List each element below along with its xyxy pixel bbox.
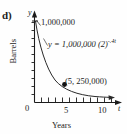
data-point-label: (5, 250,000) — [65, 77, 107, 86]
exponential-decay-figure: d) y t 1,000,000 y = 1,000,000 (2)-.4t (… — [0, 0, 127, 134]
equation-leader-line — [44, 39, 48, 46]
decay-curve — [36, 21, 116, 100]
part-label: d) — [2, 10, 12, 21]
y-axis-title: Barrels — [9, 30, 18, 72]
y-axis-arrowhead — [32, 11, 37, 18]
y-intercept-value-label: 1,000,000 — [41, 18, 75, 27]
x-tick-label-5: 5 — [64, 106, 68, 115]
x-tick-label-10: 10 — [98, 106, 107, 115]
equation-exponent: -.4t — [108, 38, 116, 44]
x-tick-label-0: 0 — [25, 104, 29, 113]
y-axis-variable-label: y — [28, 9, 32, 17]
x-axis-variable-label: t — [118, 105, 120, 113]
x-axis-ticks — [42, 98, 112, 103]
x-axis-title: Years — [52, 121, 71, 130]
equation-annotation: y = 1,000,000 (2)-.4t — [48, 38, 116, 48]
equation-base: y = 1,000,000 (2) — [48, 39, 108, 49]
